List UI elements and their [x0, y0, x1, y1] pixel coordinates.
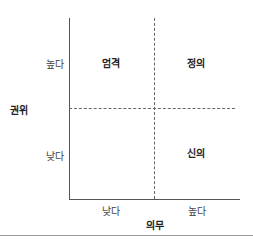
bottom-separator [0, 235, 253, 236]
quadrant-top-right: 정의 [187, 55, 205, 70]
quadrant-bottom-right: 신의 [187, 145, 205, 160]
quadrant-top-left: 엄격 [102, 55, 120, 70]
y-tick-high: 높다 [46, 56, 64, 71]
x-tick-low: 낮다 [102, 203, 120, 218]
x-tick-high: 높다 [188, 203, 206, 218]
x-axis-line [69, 199, 240, 200]
horizontal-divider [69, 108, 235, 109]
y-axis-title: 권위 [10, 102, 28, 117]
y-tick-low: 낮다 [46, 148, 64, 163]
x-axis-title: 의무 [146, 217, 164, 232]
